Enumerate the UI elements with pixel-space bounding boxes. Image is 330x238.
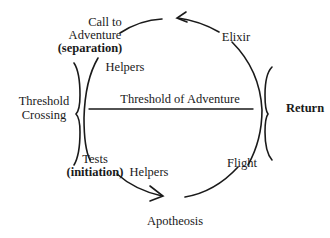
left-brace-icon xyxy=(74,63,80,165)
label-threshold-crossing-2: Crossing xyxy=(14,108,74,122)
right-brace-icon xyxy=(265,67,272,160)
arc-flight-to-bottom xyxy=(185,167,238,197)
label-threshold-crossing-1: Threshold xyxy=(14,94,74,108)
label-flight: Flight xyxy=(222,156,262,170)
label-initiation: (initiation) xyxy=(60,165,130,179)
label-helpers-bottom: Helpers xyxy=(124,165,174,179)
arrowhead-top-icon xyxy=(177,12,187,22)
label-elixir: Elixir xyxy=(216,30,256,44)
label-threshold-of-adventure: Threshold of Adventure xyxy=(105,92,255,106)
label-return: Return xyxy=(280,101,330,115)
label-apotheosis: Apotheosis xyxy=(140,214,210,228)
label-call-to-adventure-2: Adventure xyxy=(60,28,130,42)
label-helpers-top: Helpers xyxy=(100,60,150,74)
label-call-to-adventure-1: Call to xyxy=(70,15,140,29)
label-tests: Tests xyxy=(75,152,115,166)
label-separation: (separation) xyxy=(50,41,130,55)
